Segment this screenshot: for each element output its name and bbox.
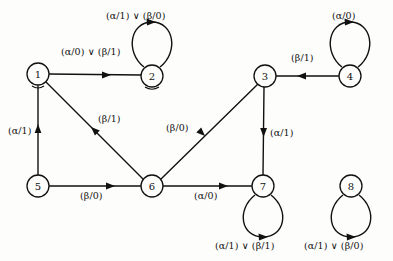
- node-2-label: 2: [149, 71, 155, 82]
- edge-6-to-7: [163, 183, 252, 190]
- node-7-label: 7: [260, 181, 266, 192]
- edge-6-to-1: [46, 82, 143, 179]
- self-loop-8: [331, 195, 371, 240]
- node-3-label: 3: [262, 71, 268, 82]
- edge-6-to-3-label: (β/0): [166, 122, 189, 133]
- self-loop-2-label: (α/1) ∨ (β/0): [106, 10, 166, 21]
- edge-4-to-3: [276, 73, 339, 80]
- edge-4-to-3-label: (β/1): [291, 52, 314, 63]
- self-loop-4: [330, 19, 370, 67]
- edge-3-to-7-label: (α/1): [270, 127, 294, 138]
- edge-5-to-1-label: (α/1): [8, 125, 32, 136]
- self-loop-8-label: (α/1) ∨ (β/0): [304, 240, 364, 251]
- edge-6-to-7-label: (α/0): [194, 190, 218, 201]
- self-loop-7: [243, 195, 283, 240]
- edge-6-to-1-label: (β/1): [98, 113, 121, 124]
- edge-1-to-2-label: (α/0) ∨ (β/1): [61, 46, 121, 57]
- self-loop-7-label: (α/1) ∨ (β/1): [215, 240, 275, 251]
- edge-5-to-6-label: (β/0): [80, 190, 103, 201]
- graph-svg: 1 2 3 4 5 6 7 8: [0, 0, 393, 261]
- edge-5-to-6: [49, 183, 141, 190]
- diagram-canvas: 1 2 3 4 5 6 7 8 (α/1) ∨ (β/0) (α/0) (α/1…: [0, 0, 393, 261]
- edge-5-to-1: [35, 86, 42, 175]
- node-5-label: 5: [35, 181, 41, 192]
- edge-3-to-7: [260, 87, 267, 175]
- node-8-label: 8: [348, 181, 354, 192]
- node-4-label: 4: [347, 71, 353, 82]
- node-1-label: 1: [35, 69, 41, 80]
- node-6-label: 6: [149, 181, 155, 192]
- self-loop-4-label: (α/0): [332, 10, 356, 21]
- edge-1-to-2: [49, 72, 141, 79]
